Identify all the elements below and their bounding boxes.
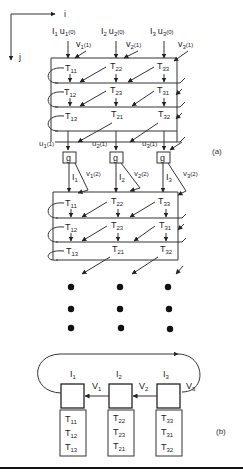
svg-text:v3(1): v3(1) — [178, 39, 193, 50]
block-1: T11 T22 T33 T12 T23 T31 T13 T21 T32 — [48, 58, 185, 142]
panel-b-label: (b) — [216, 427, 226, 436]
svg-text:v3(2): v3(2) — [183, 169, 198, 179]
svg-text:T13: T13 — [66, 246, 79, 257]
svg-text:T32: T32 — [161, 442, 174, 453]
svg-text:T13: T13 — [65, 111, 78, 122]
svg-text:v2(1): v2(1) — [126, 39, 141, 50]
svg-text:I2u2(0): I2u2(0) — [101, 26, 125, 37]
svg-text:I2: I2 — [119, 172, 126, 183]
svg-text:T21: T21 — [112, 244, 125, 255]
svg-text:I3u3(0): I3u3(0) — [150, 26, 174, 37]
j-axis-label: j — [18, 52, 21, 62]
svg-text:T22: T22 — [113, 413, 126, 424]
svg-text:T33: T33 — [161, 413, 174, 424]
svg-text:V1: V1 — [92, 381, 102, 392]
svg-text:u3(1): u3(1) — [142, 139, 157, 149]
svg-text:v1(2): v1(2) — [86, 169, 101, 179]
svg-text:g: g — [160, 153, 165, 163]
svg-text:T23: T23 — [110, 85, 123, 96]
svg-text:g: g — [66, 153, 71, 163]
svg-text:T23: T23 — [113, 427, 126, 438]
continuation-dots — [68, 284, 173, 332]
processor-1-box — [61, 384, 84, 408]
svg-text:u1(1): u1(1) — [39, 139, 54, 149]
svg-text:v2(2): v2(2) — [134, 169, 149, 179]
svg-text:I1: I1 — [70, 369, 77, 380]
svg-text:T21: T21 — [113, 441, 126, 452]
svg-text:T11: T11 — [65, 414, 77, 425]
i-axis-label: i — [64, 9, 66, 19]
panel-a-label: (a) — [212, 147, 222, 156]
systolic-diagram: i j I1u1(0) v1(1) I2u2(0) v2(1) I3u3(0) … — [0, 0, 243, 472]
svg-text:T33: T33 — [158, 196, 171, 207]
svg-text:T32: T32 — [158, 109, 171, 120]
block1-output-arrows: u1(1) u2(1) u3(1) — [39, 123, 182, 150]
svg-text:v1(1): v1(1) — [76, 39, 91, 50]
svg-text:V2: V2 — [139, 381, 149, 392]
svg-text:I3: I3 — [163, 369, 170, 380]
svg-text:T31: T31 — [161, 427, 174, 438]
g-to-block2-arrows: I1 v1(2) I2 v2(2) I3 v3(2) — [69, 163, 198, 195]
svg-text:V3: V3 — [186, 381, 196, 392]
svg-text:T21: T21 — [111, 109, 124, 120]
svg-text:T31: T31 — [159, 220, 172, 231]
svg-text:I1u1(0): I1u1(0) — [52, 26, 76, 37]
svg-text:u2(1): u2(1) — [92, 139, 107, 149]
svg-text:T22: T22 — [111, 196, 124, 207]
svg-text:T11: T11 — [65, 198, 77, 209]
svg-text:T22: T22 — [110, 61, 123, 72]
svg-text:I1: I1 — [72, 172, 79, 183]
svg-text:g: g — [113, 153, 118, 163]
g-boxes: g g g — [63, 152, 170, 163]
svg-text:T12: T12 — [64, 87, 77, 98]
svg-text:T32: T32 — [160, 244, 173, 255]
svg-text:T11: T11 — [65, 63, 77, 74]
svg-text:T12: T12 — [65, 428, 78, 439]
panel-b: I1 I2 I3 V1 V2 V3 T11 T12 T13 T22 T23 T2… — [38, 354, 226, 456]
svg-text:T31: T31 — [157, 85, 170, 96]
svg-text:T33: T33 — [157, 61, 170, 72]
svg-text:T12: T12 — [65, 222, 78, 233]
svg-text:I2: I2 — [116, 369, 123, 380]
input-labels: I1u1(0) v1(1) I2u2(0) v2(1) I3u3(0) v3(1… — [52, 26, 193, 50]
processor-3-box — [157, 384, 180, 408]
svg-text:I3: I3 — [166, 172, 173, 183]
processor-2-box — [109, 384, 132, 408]
block-2: T11 T22 T33 T12 T23 T31 T13 T21 T32 — [48, 192, 186, 274]
svg-text:T23: T23 — [111, 220, 124, 231]
svg-text:T13: T13 — [65, 442, 78, 453]
